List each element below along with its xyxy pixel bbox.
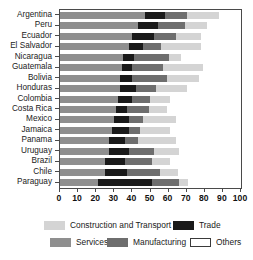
chart-legend: Construction and TransportTradeServicesM… — [44, 220, 244, 254]
bar-segment — [60, 43, 129, 50]
legend-entry: Services — [50, 237, 108, 247]
y-axis-label: Argentina — [17, 10, 52, 19]
chart-figure: ArgentinaPeruEcuadorEl SalvadorNicaragua… — [0, 0, 253, 260]
bar-segment — [176, 137, 241, 144]
y-axis-labels: ArgentinaPeruEcuadorEl SalvadorNicaragua… — [0, 9, 56, 187]
bar-row — [60, 179, 241, 186]
y-axis-label: Ecuador — [22, 31, 53, 40]
x-axis-label: 20 — [90, 193, 100, 203]
bar-row — [60, 169, 241, 176]
bar-segment — [219, 12, 241, 19]
bar-segment — [60, 75, 120, 82]
bar-segment — [109, 148, 129, 155]
bar-segment — [163, 64, 203, 71]
bar-segment — [60, 137, 109, 144]
bar-segment — [154, 148, 179, 155]
bar-segment — [127, 169, 160, 176]
bar-segment — [98, 179, 152, 186]
bar-row — [60, 137, 241, 144]
legend-swatch — [173, 221, 194, 230]
x-axis-label: 60 — [163, 193, 173, 203]
x-axis-label: 30 — [109, 193, 119, 203]
bar-segment — [160, 169, 178, 176]
bar-segment — [132, 75, 166, 82]
bar-segment — [132, 96, 150, 103]
legend-label: Others — [216, 237, 241, 247]
x-axis-tick — [204, 188, 205, 192]
bar-segment — [60, 169, 105, 176]
x-axis: 0102030405060708090100 — [59, 188, 240, 210]
bar-segment — [176, 33, 201, 40]
bar-segment — [138, 137, 176, 144]
x-axis-tick — [95, 188, 96, 192]
legend-swatch — [44, 221, 65, 230]
bar-segment — [201, 33, 241, 40]
x-axis-tick — [240, 188, 241, 192]
y-axis-label: Guatemala — [12, 62, 52, 71]
legend-entry: Construction and Transport — [44, 220, 171, 230]
bar-segment — [125, 137, 138, 144]
bar-segment — [136, 85, 156, 92]
x-axis-label: 50 — [145, 193, 155, 203]
bar-row — [60, 75, 241, 82]
x-axis-tick — [186, 188, 187, 192]
bar-segment — [60, 148, 109, 155]
bar-segment — [199, 75, 241, 82]
bar-segment — [125, 158, 152, 165]
x-axis-tick — [222, 188, 223, 192]
bar-row — [60, 12, 241, 19]
bar-segment — [60, 22, 138, 29]
bar-segment — [60, 64, 122, 71]
bar-segment — [60, 158, 105, 165]
bar-row — [60, 85, 241, 92]
bar-row — [60, 43, 241, 50]
bar-segment — [150, 96, 170, 103]
legend-swatch — [50, 238, 71, 247]
bar-segment — [114, 116, 128, 123]
x-axis-label: 10 — [72, 193, 82, 203]
x-axis-tick — [113, 188, 114, 192]
bar-segment — [120, 85, 136, 92]
bar-segment — [165, 12, 187, 19]
bar-segment — [105, 158, 125, 165]
y-axis-label: Honduras — [16, 83, 52, 92]
y-axis-label: El Salvador — [10, 41, 52, 50]
bar-segment — [154, 33, 176, 40]
legend-label: Construction and Transport — [70, 220, 171, 230]
legend-entry: Manufacturing — [107, 237, 186, 247]
x-axis-label: 80 — [199, 193, 209, 203]
bar-segment — [60, 33, 132, 40]
x-axis-tick — [131, 188, 132, 192]
x-axis-label: 40 — [127, 193, 137, 203]
bar-segment — [179, 179, 188, 186]
bar-segment — [134, 54, 168, 61]
bar-segment — [132, 33, 154, 40]
bar-segment — [156, 85, 187, 92]
bar-segment — [161, 43, 201, 50]
bar-segment — [138, 22, 158, 29]
bar-segment — [127, 106, 149, 113]
x-axis-tick — [59, 188, 60, 192]
y-axis-label: Mexico — [26, 114, 52, 123]
y-axis-label: Chile — [33, 167, 52, 176]
bar-segment — [176, 116, 241, 123]
bar-segment — [129, 127, 140, 134]
x-axis-tick — [77, 188, 78, 192]
bar-segment — [122, 64, 133, 71]
bars-container — [60, 10, 241, 188]
x-axis-label: 0 — [57, 193, 62, 203]
y-axis-label: Panama — [22, 135, 53, 144]
bar-segment — [152, 179, 179, 186]
bar-row — [60, 127, 241, 134]
x-axis-label: 70 — [181, 193, 191, 203]
y-axis-label: Costa Rica — [12, 104, 52, 113]
y-axis-label: Brazil — [32, 156, 52, 165]
y-axis-label: Uruguay — [21, 146, 52, 155]
legend-label: Manufacturing — [133, 237, 186, 247]
legend-swatch — [107, 238, 128, 247]
bar-segment — [170, 96, 241, 103]
bar-row — [60, 96, 241, 103]
legend-entry: Trade — [173, 220, 221, 230]
bar-segment — [123, 54, 134, 61]
bar-segment — [179, 148, 241, 155]
